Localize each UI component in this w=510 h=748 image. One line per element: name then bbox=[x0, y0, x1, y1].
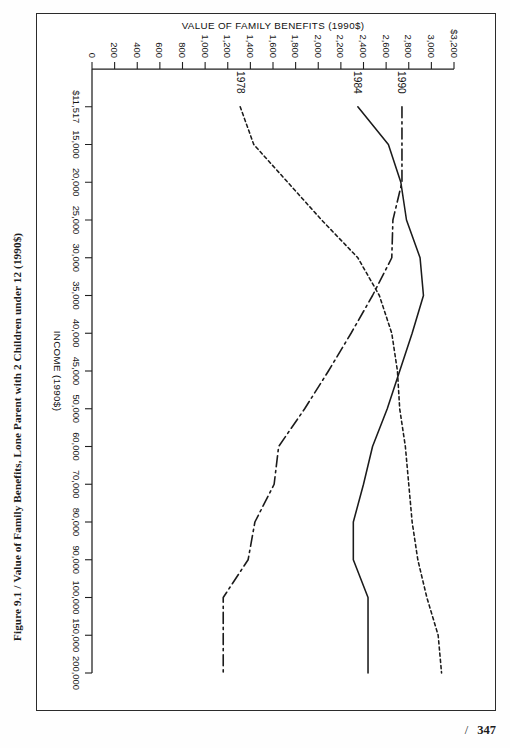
x-tick-label: 70,000 bbox=[71, 470, 82, 499]
y-tick-label: 1,000 bbox=[200, 35, 211, 58]
y-tick-label: 0 bbox=[87, 53, 98, 58]
y-tick-label: 400 bbox=[132, 42, 143, 58]
plot-area: $11,51715,00020,00025,00030,00035,00040,… bbox=[36, 13, 496, 711]
figure-title: Value of Family Benefits, Lone Parent wi… bbox=[11, 233, 23, 583]
caption-separator: / bbox=[11, 583, 23, 592]
x-tick-label: 90,000 bbox=[71, 545, 82, 574]
y-tick-label: 1,400 bbox=[245, 35, 256, 58]
series-label-1984: 1984 bbox=[352, 71, 363, 94]
series-line-1990 bbox=[223, 107, 402, 673]
series-line-1984 bbox=[353, 107, 423, 673]
x-tick-label: $11,517 bbox=[71, 90, 82, 123]
x-tick-label: 200,000 bbox=[71, 656, 82, 690]
series-label-1978: 1978 bbox=[235, 71, 246, 94]
y-tick-label: 2,200 bbox=[335, 35, 346, 58]
x-tick-label: 100,000 bbox=[71, 581, 82, 615]
y-tick-label: 200 bbox=[109, 42, 120, 58]
x-tick-label: 20,000 bbox=[71, 168, 82, 197]
x-tick-label: 40,000 bbox=[71, 319, 82, 348]
y-tick-label: 2,400 bbox=[358, 35, 369, 58]
y-tick-label: 1,200 bbox=[222, 35, 233, 58]
y-tick-label: 2,800 bbox=[403, 35, 414, 58]
x-axis-ticks bbox=[85, 107, 92, 673]
line-chart: $11,51715,00020,00025,00030,00035,00040,… bbox=[36, 13, 496, 711]
x-tick-label: 80,000 bbox=[71, 508, 82, 537]
x-tick-label: 45,000 bbox=[71, 357, 82, 386]
y-axis-ticks bbox=[92, 62, 454, 69]
x-tick-label: 150,000 bbox=[71, 618, 82, 652]
x-tick-label: 25,000 bbox=[71, 206, 82, 235]
y-tick-label: 3,000 bbox=[426, 35, 437, 58]
x-tick-label: 50,000 bbox=[71, 394, 82, 423]
x-tick-label: 15,000 bbox=[71, 130, 82, 159]
folio-separator: / bbox=[465, 723, 477, 737]
x-axis-title: INCOME (1990$) bbox=[52, 331, 63, 412]
series-label-1990: 1990 bbox=[396, 71, 407, 94]
series-lines bbox=[223, 107, 441, 673]
y-tick-label: $3,200 bbox=[449, 29, 460, 58]
folio-number: 347 bbox=[477, 723, 496, 737]
page: Figure 9.1/Value of Family Benefits, Lon… bbox=[0, 0, 510, 748]
x-tick-label: 30,000 bbox=[71, 243, 82, 272]
x-tick-label: 35,000 bbox=[71, 281, 82, 310]
series-line-1978 bbox=[240, 107, 441, 673]
y-tick-label: 800 bbox=[177, 42, 188, 58]
figure-caption: Figure 9.1/Value of Family Benefits, Lon… bbox=[11, 171, 23, 641]
y-tick-label: 1,600 bbox=[268, 35, 279, 58]
figure-number: Figure 9.1 bbox=[11, 592, 23, 641]
x-tick-label: 60,000 bbox=[71, 432, 82, 461]
x-axis-tick-labels: $11,51715,00020,00025,00030,00035,00040,… bbox=[71, 90, 82, 690]
y-tick-label: 2,600 bbox=[381, 35, 392, 58]
y-tick-label: 1,800 bbox=[290, 35, 301, 58]
y-axis-tick-labels: $3,2003,0002,8002,6002,4002,2002,0001,80… bbox=[87, 29, 460, 58]
page-folio: /347 bbox=[465, 723, 496, 738]
y-tick-label: 2,000 bbox=[313, 35, 324, 58]
series-end-labels: 197819841990 bbox=[235, 71, 408, 94]
y-axis-title: VALUE OF FAMILY BENEFITS (1990$) bbox=[182, 20, 365, 31]
y-tick-label: 600 bbox=[154, 42, 165, 58]
